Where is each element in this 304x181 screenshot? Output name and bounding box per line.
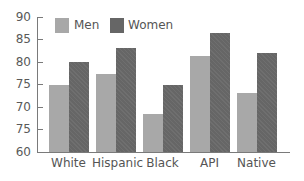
bar-white-women	[69, 62, 89, 152]
legend-swatch-women	[110, 18, 124, 33]
bar-black-women	[163, 85, 183, 152]
bar-api-women	[210, 33, 230, 152]
bar-hispanic-women	[116, 48, 136, 152]
y-tick-label: 70	[5, 101, 31, 113]
y-tick	[37, 84, 43, 85]
y-tick-label: 60	[5, 146, 31, 158]
bar-black-men	[143, 114, 163, 152]
bar-native-men	[237, 93, 257, 152]
legend-swatch-men	[55, 18, 69, 33]
legend-label-men: Men	[74, 18, 99, 33]
y-tick-label: 85	[5, 33, 31, 45]
y-tick-label: 75	[5, 78, 31, 90]
x-axis-line	[37, 152, 290, 153]
bar-api-men	[190, 56, 210, 152]
y-tick	[37, 17, 43, 18]
y-axis-line	[37, 17, 38, 153]
x-tick-label: Native	[233, 156, 280, 170]
bar-chart: 90 85 80 75 70 75 60 White Hispanic Blac…	[0, 0, 304, 181]
y-tick-label: 80	[5, 56, 31, 68]
bar-hispanic-men	[96, 74, 116, 152]
y-tick	[37, 107, 43, 108]
x-tick-label: Black	[139, 156, 186, 170]
legend-label-women: Women	[128, 18, 173, 33]
y-tick-label: 75	[5, 123, 31, 135]
y-tick	[37, 129, 43, 130]
y-tick-label: 90	[5, 11, 31, 23]
x-tick-label: White	[45, 156, 92, 170]
x-tick-label: Hispanic	[92, 156, 139, 170]
y-tick	[37, 62, 43, 63]
y-tick	[37, 39, 43, 40]
bar-white-men	[49, 85, 69, 152]
bar-native-women	[257, 53, 277, 152]
x-tick-label: API	[186, 156, 233, 170]
